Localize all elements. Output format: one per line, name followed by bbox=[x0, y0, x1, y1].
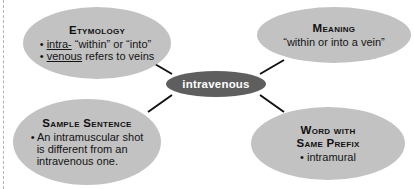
word-same-prefix-title-line-2: Same Prefix bbox=[296, 137, 359, 150]
sample-sentence-title: Sample Sentence bbox=[42, 117, 131, 130]
connector-word-same-prefix bbox=[260, 95, 284, 112]
sample-sentence-line-1: • An intramuscular shot bbox=[31, 131, 144, 143]
center-node-label: intravenous bbox=[182, 78, 249, 90]
bubble-etymology: Etymology • intra- “within” or “into” • … bbox=[23, 7, 171, 79]
sample-sentence-line-2: is different from an bbox=[31, 143, 144, 155]
sample-sentence-body: • An intramuscular shot is different fro… bbox=[31, 131, 144, 167]
etymology-body: • intra- “within” or “into” • venous ref… bbox=[40, 38, 155, 62]
meaning-line-1: “within or into a vein” bbox=[283, 36, 385, 48]
meaning-title: Meaning bbox=[313, 22, 356, 35]
etymology-title: Etymology bbox=[69, 24, 125, 37]
connector-meaning bbox=[260, 60, 284, 74]
etymology-line-2: • venous refers to veins bbox=[40, 50, 155, 62]
sample-sentence-line-3: intravenous one. bbox=[31, 155, 144, 167]
bubble-word-same-prefix: Word with Same Prefix • intramural bbox=[251, 107, 405, 180]
word-web-diagram: Etymology • intra- “within” or “into” • … bbox=[0, 0, 414, 189]
connector-sample-sentence bbox=[148, 95, 172, 112]
bubble-sample-sentence: Sample Sentence • An intramuscular shot … bbox=[13, 99, 161, 185]
word-same-prefix-title-line-1: Word with bbox=[301, 124, 356, 137]
word-same-prefix-line-1: • intramural bbox=[300, 151, 356, 163]
center-node-intravenous: intravenous bbox=[166, 71, 266, 97]
etymology-line-1: • intra- “within” or “into” bbox=[40, 38, 155, 50]
bubble-meaning: Meaning “within or into a vein” bbox=[257, 7, 411, 63]
